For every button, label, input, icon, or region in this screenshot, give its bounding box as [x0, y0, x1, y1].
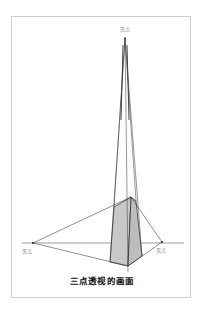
vp-left-label: 灭点 — [22, 248, 32, 255]
vp-right-label: 灭点 — [156, 247, 166, 254]
vp-left-dot — [32, 242, 34, 244]
vp-top-dot — [124, 37, 126, 39]
perspective-diagram: 灭点 灭点 灭点 — [0, 0, 204, 312]
figure-caption: 三点透视的画面 — [0, 274, 204, 286]
vp-right-dot — [161, 241, 163, 243]
vp-top-label: 灭点 — [120, 26, 130, 33]
